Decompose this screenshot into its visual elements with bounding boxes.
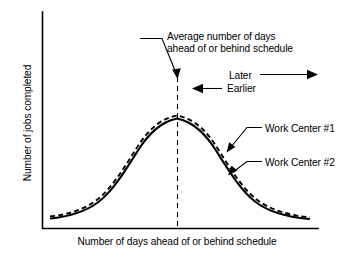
mean-annotation-line-1: Average number of days — [167, 31, 293, 43]
direction-label-earlier: Earlier — [227, 83, 256, 95]
earlier-arrow-icon — [192, 84, 203, 93]
work-center-2-leader-line — [233, 162, 262, 173]
series-label-work-center-1: Work Center #1 — [265, 123, 335, 135]
work-center-1-leader-line — [231, 128, 262, 148]
mean-annotation-line-2: ahead of or behind schedule — [167, 43, 293, 55]
annotation-arrowhead-icon — [172, 68, 181, 79]
later-arrow-icon — [307, 70, 318, 79]
x-axis-label: Number of days ahead of or behind schedu… — [0, 236, 354, 248]
y-axis-label: Number of jobs completed — [22, 33, 34, 213]
series-label-work-center-2: Work Center #2 — [265, 157, 335, 169]
mean-annotation-label: Average number of days ahead of or behin… — [167, 31, 293, 55]
direction-label-later: Later — [229, 70, 252, 82]
chart-figure: Average number of days ahead of or behin… — [0, 0, 354, 256]
